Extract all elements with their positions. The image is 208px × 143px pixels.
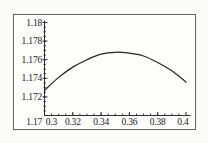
y-tick-label: 1.17 bbox=[10, 117, 42, 127]
x-tick-label: 0.38 bbox=[146, 117, 170, 127]
y-tick-label: 1.172 bbox=[10, 92, 42, 102]
x-tick-label: 0.36 bbox=[117, 117, 141, 127]
y-tick-label: 1.176 bbox=[10, 55, 42, 65]
scanned-chart-page: 1.171.1721.1741.1761.1781.180.30.320.340… bbox=[0, 0, 208, 143]
y-tick-label: 1.18 bbox=[10, 18, 42, 28]
y-tick-label: 1.174 bbox=[10, 73, 42, 83]
x-tick-label: 0.32 bbox=[61, 117, 85, 127]
y-tick-label: 1.178 bbox=[10, 36, 42, 46]
x-tick-label: 0.4 bbox=[171, 117, 195, 127]
curve-path bbox=[45, 52, 187, 90]
x-tick-label: 0.34 bbox=[89, 117, 113, 127]
